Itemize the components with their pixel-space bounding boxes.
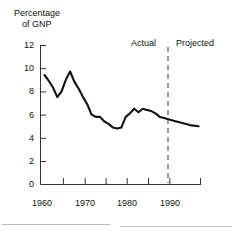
x-axis: [41, 178, 202, 185]
page-edge-artifact-left: [2, 224, 110, 225]
plot-area: [0, 0, 233, 232]
y-axis: [41, 45, 47, 185]
page-edge-artifact-right: [120, 226, 232, 227]
chart-figure: Percentage of GNP Actual Projected 12 10…: [0, 0, 233, 232]
gnp-percentage-line: [45, 72, 199, 129]
